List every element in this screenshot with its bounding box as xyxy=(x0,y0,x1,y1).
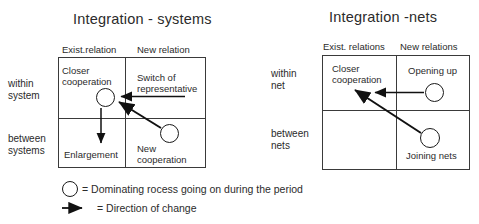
left-row-header-between-systems-line1: between xyxy=(8,133,46,145)
right-panel-title: Integration -nets xyxy=(329,9,437,25)
legend-arrow-icon xyxy=(60,201,90,215)
left-cell-enlargement: Enlargement xyxy=(64,149,118,160)
left-row-header-between-systems-line2: systems xyxy=(8,145,46,157)
right-cell-closer-cooperation: Closer cooperation xyxy=(332,63,382,85)
legend-circle-text: = Dominating rocess going on during the … xyxy=(82,183,303,195)
right-row-header-between-nets: between nets xyxy=(271,128,309,151)
right-cell-opening-up: Opening up xyxy=(408,65,457,76)
right-matrix-row-divider xyxy=(322,110,470,111)
left-cell-closer-cooperation: Closer cooperation xyxy=(62,65,112,87)
left-cell-switch-of-representative-line1: Switch of xyxy=(137,72,197,83)
right-column-header-new: New relations xyxy=(400,41,458,52)
left-matrix-column-divider xyxy=(125,57,126,168)
right-circle-opening-up xyxy=(425,83,444,102)
left-cell-new-cooperation: New cooperation xyxy=(137,143,187,165)
left-circle-new-cooperation xyxy=(160,124,179,143)
right-cell-closer-cooperation-line2: cooperation xyxy=(332,74,382,85)
right-row-header-between-nets-line1: between xyxy=(271,128,309,140)
left-panel-title: Integration - systems xyxy=(73,11,212,27)
right-row-header-within-net: within net xyxy=(271,68,297,91)
left-row-header-within-system-line1: within xyxy=(8,78,40,90)
right-cell-joining-nets: Joining nets xyxy=(406,150,457,161)
left-column-header-existing: Exist.relation xyxy=(62,44,116,55)
right-circle-joining-nets xyxy=(420,128,440,148)
left-cell-new-cooperation-line2: cooperation xyxy=(137,154,187,165)
left-matrix-row-divider xyxy=(58,118,206,119)
left-row-header-between-systems: between systems xyxy=(8,133,46,156)
legend-arrow-text: = Direction of change xyxy=(97,202,197,214)
right-row-header-within-net-line1: within xyxy=(271,68,297,80)
legend-circle-icon xyxy=(62,181,78,197)
figure-canvas: Integration - systems Exist.relation New… xyxy=(0,0,479,224)
left-cell-switch-of-representative-line2: representative xyxy=(137,83,197,94)
left-row-header-within-system: within system xyxy=(8,78,40,101)
left-column-header-new: New relation xyxy=(137,44,190,55)
left-cell-switch-of-representative: Switch of representative xyxy=(137,72,197,94)
left-cell-closer-cooperation-line1: Closer xyxy=(62,65,112,76)
right-column-header-existing: Exist. relations xyxy=(323,41,385,52)
right-row-header-within-net-line2: net xyxy=(271,80,297,92)
left-row-header-within-system-line2: system xyxy=(8,90,40,102)
left-circle-closer-cooperation xyxy=(96,88,115,107)
left-cell-closer-cooperation-line2: cooperation xyxy=(62,76,112,87)
right-row-header-between-nets-line2: nets xyxy=(271,140,309,152)
left-cell-new-cooperation-line1: New xyxy=(137,143,187,154)
right-matrix-column-divider xyxy=(396,55,397,170)
right-cell-closer-cooperation-line1: Closer xyxy=(332,63,382,74)
